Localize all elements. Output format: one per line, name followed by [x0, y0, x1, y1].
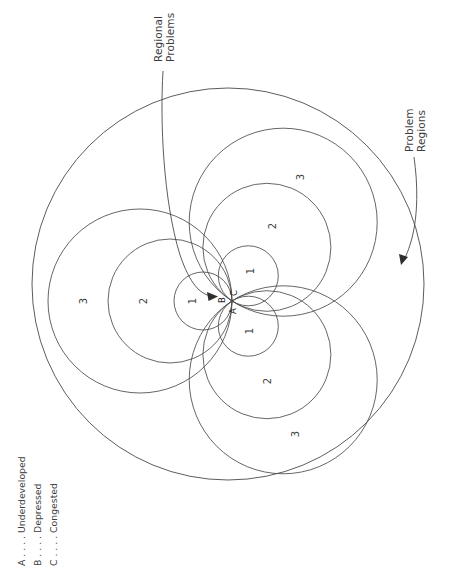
legend-sep-a: . . . .: [16, 536, 27, 560]
group-c-ring-3-label: 3: [295, 174, 306, 180]
group-c-ring-2: [203, 183, 331, 311]
legend-key-a: A: [16, 560, 27, 566]
legend: A . . . . Underdeveloped B . . . . Depre…: [14, 456, 62, 566]
legend-key-c: C: [48, 560, 59, 567]
group-a-ring-3-label: 3: [290, 431, 301, 437]
group-a-ring-2: [203, 291, 331, 419]
legend-label-a: Underdeveloped: [16, 456, 27, 533]
group-b-ring-2-label: 2: [138, 298, 149, 304]
group-a-ring-2-label: 2: [262, 378, 273, 384]
outer-boundary-circle: [32, 88, 424, 480]
legend-row-c: C . . . . Congested: [46, 456, 62, 566]
callout-problem-regions: Problem Regions: [403, 108, 428, 152]
legend-sep-b: . . . .: [32, 536, 43, 560]
group-a-ring-1-label: 1: [244, 328, 255, 334]
group-b-letter: B: [217, 297, 227, 303]
figure-root: Regional Problems Problem Regions 1 2 3 …: [0, 0, 450, 581]
problem-regions-leader-line: [404, 157, 417, 260]
problem-regions-arrow-icon: [399, 254, 408, 265]
legend-label-b: Depressed: [32, 484, 43, 533]
group-b-ring-3-label: 3: [78, 298, 89, 304]
legend-row-b: B . . . . Depressed: [30, 456, 46, 566]
group-c-ring-2-label: 2: [267, 223, 278, 229]
legend-label-c: Congested: [48, 483, 59, 533]
group-b-ring-2: [108, 239, 232, 363]
group-c-letter: C: [229, 290, 239, 296]
legend-key-b: B: [32, 560, 43, 566]
legend-sep-c: . . . .: [48, 536, 59, 560]
group-c-ring-1-label: 1: [245, 268, 256, 274]
group-a-ring-1: [218, 296, 278, 356]
regional-problems-leader-line: [162, 71, 211, 296]
group-a-letter: A: [228, 308, 238, 314]
legend-row-a: A . . . . Underdeveloped: [14, 456, 30, 566]
group-b-ring-1-label: 1: [187, 298, 198, 304]
callout-regional-problems: Regional Problems: [152, 13, 177, 62]
group-c-ring-1: [218, 246, 278, 306]
diagram-canvas: [0, 0, 450, 581]
